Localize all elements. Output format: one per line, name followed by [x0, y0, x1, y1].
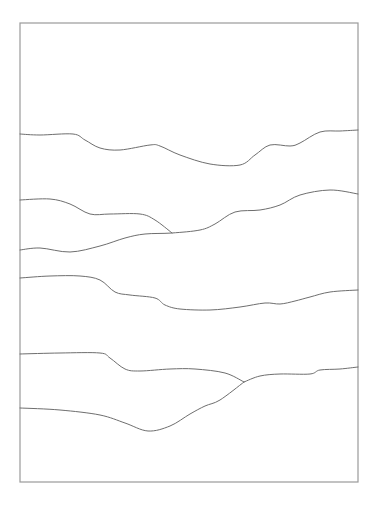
curve-2 [20, 199, 172, 233]
contour-lines [20, 130, 358, 431]
curve-7 [20, 382, 244, 431]
curve-1 [20, 130, 358, 166]
line-drawing-canvas [0, 0, 379, 506]
curve-4 [20, 276, 358, 310]
drawing-frame [20, 23, 358, 482]
curve-6 [244, 367, 358, 382]
curve-3 [20, 190, 358, 252]
curve-5 [20, 353, 244, 382]
